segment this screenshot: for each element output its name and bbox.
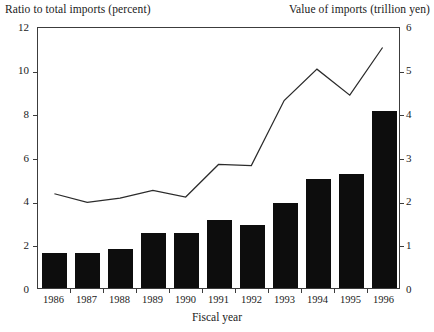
x-tick xyxy=(202,289,203,293)
y-tick xyxy=(399,159,404,160)
bar-1988 xyxy=(108,249,134,288)
y-tick xyxy=(33,159,38,160)
y-tick xyxy=(33,203,38,204)
bar-1996 xyxy=(372,111,398,288)
right-axis-title: Value of imports (trillion yen) xyxy=(289,3,430,15)
y-tick xyxy=(399,72,404,73)
y-tick xyxy=(399,246,404,247)
y-axis-label-6: 6 xyxy=(24,153,30,164)
x-tick xyxy=(268,289,269,293)
y2-axis-label-0: 0 xyxy=(406,284,412,295)
bar-1990 xyxy=(174,233,200,288)
y-tick xyxy=(33,115,38,116)
y2-axis-label-1: 1 xyxy=(406,240,412,251)
y-axis-label-0: 0 xyxy=(24,284,30,295)
y2-axis-label-6: 6 xyxy=(406,22,412,33)
bar-1992 xyxy=(240,225,266,288)
bar-1994 xyxy=(306,179,332,288)
x-tick xyxy=(301,289,302,293)
x-tick xyxy=(235,289,236,293)
y-tick xyxy=(399,115,404,116)
y-tick xyxy=(33,246,38,247)
x-axis-label-1996: 1996 xyxy=(364,294,404,305)
left-axis-title: Ratio to total imports (percent) xyxy=(5,3,151,15)
ratio-line-path xyxy=(54,48,382,203)
bar-1993 xyxy=(273,203,299,288)
y2-axis-label-2: 2 xyxy=(406,196,412,207)
chart-figure: Ratio to total imports (percent) Value o… xyxy=(0,0,434,332)
bar-1989 xyxy=(141,233,167,288)
y2-axis-label-4: 4 xyxy=(406,109,412,120)
y-axis-label-12: 12 xyxy=(18,22,29,33)
bar-1991 xyxy=(207,220,233,288)
x-tick xyxy=(70,289,71,293)
y2-axis-label-5: 5 xyxy=(406,65,412,76)
x-tick xyxy=(103,289,104,293)
x-tick xyxy=(334,289,335,293)
y2-axis-label-3: 3 xyxy=(406,153,412,164)
bar-1995 xyxy=(339,174,365,288)
bar-1987 xyxy=(75,253,101,288)
y-tick xyxy=(33,72,38,73)
plot-area xyxy=(37,27,400,289)
x-tick xyxy=(169,289,170,293)
y-axis-label-2: 2 xyxy=(24,240,30,251)
x-axis-title: Fiscal year xyxy=(0,311,434,323)
y-axis-label-8: 8 xyxy=(24,109,30,120)
x-tick xyxy=(136,289,137,293)
y-axis-label-10: 10 xyxy=(18,65,29,76)
bar-1986 xyxy=(42,253,68,288)
x-tick xyxy=(367,289,368,293)
y-tick xyxy=(399,203,404,204)
y-axis-label-4: 4 xyxy=(24,196,30,207)
